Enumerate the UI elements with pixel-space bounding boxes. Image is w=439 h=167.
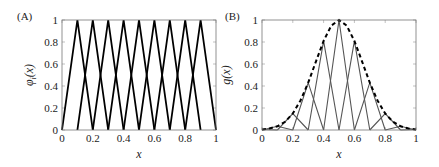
basis-function-line — [124, 20, 155, 130]
figure: (A) 00.20.40.60.81 00.20.40.60.81 x φi(x… — [0, 0, 439, 167]
basis-function-line — [93, 20, 124, 130]
y-tick-label: 0.2 — [44, 102, 58, 114]
panel-b-y-axis-label: g(x) — [219, 65, 233, 84]
panel-a-label: (A) — [17, 10, 33, 23]
panel-b-ticks — [262, 20, 416, 130]
basis-function-line — [108, 20, 139, 130]
y-tick-label: 0 — [53, 124, 59, 136]
panel-a-x-tick-labels: 00.20.40.60.81 — [59, 132, 219, 144]
x-tick-label: 0 — [59, 132, 65, 144]
x-tick-label: 0.8 — [378, 132, 392, 144]
y-tick-label: 0.4 — [244, 80, 258, 92]
basis-function-line — [62, 20, 93, 130]
x-tick-label: 0.2 — [286, 132, 300, 144]
basis-function-line — [139, 20, 170, 130]
panel-b-label: (B) — [225, 10, 240, 23]
x-tick-label: 0.6 — [148, 132, 162, 144]
x-tick-label: 0.6 — [348, 132, 362, 144]
x-tick-label: 0.4 — [117, 132, 131, 144]
panel-a-series — [62, 20, 216, 130]
target-function-dashed-line — [262, 20, 416, 129]
panel-b-y-tick-labels: 00.20.40.60.81 — [244, 14, 258, 136]
y-tick-label: 0.4 — [44, 80, 58, 92]
basis-function-line — [170, 20, 201, 130]
y-tick-label: 0.8 — [44, 36, 58, 48]
y-tick-label: 0 — [253, 124, 259, 136]
y-tick-label: 0.2 — [244, 102, 258, 114]
panel-b-series — [262, 20, 416, 130]
panel-b-x-tick-labels: 00.20.40.60.81 — [259, 132, 419, 144]
panel-a-y-axis-label: φi(x) — [22, 64, 38, 86]
y-tick-label: 0.6 — [44, 58, 58, 70]
basis-function-line — [185, 20, 216, 130]
x-tick-label: 1 — [413, 132, 419, 144]
panel-b-chart: (B) 00.20.40.60.81 00.20.40.60.81 x g(x) — [219, 10, 419, 161]
y-tick-label: 0.6 — [244, 58, 258, 70]
panel-b-x-axis-label: x — [335, 147, 342, 161]
basis-function-line — [154, 20, 185, 130]
x-tick-label: 0 — [259, 132, 265, 144]
y-tick-label: 0.8 — [244, 36, 258, 48]
panel-b-frame — [262, 20, 416, 130]
y-tick-label: 1 — [53, 14, 59, 26]
basis-function-line — [324, 20, 355, 130]
panel-a-x-axis-label: x — [135, 147, 142, 161]
x-tick-label: 0.8 — [178, 132, 192, 144]
y-tick-label: 1 — [253, 14, 259, 26]
x-tick-label: 0.2 — [86, 132, 100, 144]
panel-a-y-tick-labels: 00.20.40.60.81 — [44, 14, 58, 136]
x-tick-label: 1 — [213, 132, 219, 144]
basis-function-line — [77, 20, 108, 130]
x-tick-label: 0.4 — [317, 132, 331, 144]
panel-a-chart: (A) 00.20.40.60.81 00.20.40.60.81 x φi(x… — [17, 10, 219, 161]
